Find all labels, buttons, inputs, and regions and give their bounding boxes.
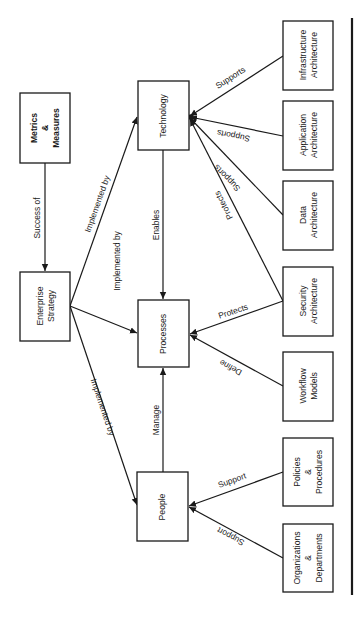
infrastructure-line2: Architecture xyxy=(309,32,319,78)
node-workflow-models: Workflow Models xyxy=(283,352,333,421)
label-strategy-people: Implemented by xyxy=(89,377,118,437)
node-infrastructure-architecture: Infrastructure Architecture xyxy=(283,21,333,90)
data-line1: Data xyxy=(298,206,308,224)
workflow-line1: Workflow xyxy=(298,368,308,404)
edge-infrastructure-technology xyxy=(190,56,283,116)
security-line2: Architecture xyxy=(309,278,319,324)
node-data-architecture: Data Architecture xyxy=(283,181,333,250)
node-organizations-departments: Organizations & Departments xyxy=(283,524,333,592)
security-line1: Security xyxy=(298,285,308,317)
edge-strategy-technology xyxy=(70,117,137,306)
metrics-line2: & xyxy=(40,125,50,131)
processes-label: Processes xyxy=(158,314,168,354)
data-line2: Architecture xyxy=(309,192,319,238)
node-enterprise-strategy: Enterprise Strategy xyxy=(20,272,70,341)
label-supports-infrastructure: Supports xyxy=(214,64,248,91)
edge-security-technology xyxy=(190,119,283,301)
edge-strategy-processes xyxy=(70,306,137,333)
application-line1: Application xyxy=(298,114,308,156)
strategy-line1: Enterprise xyxy=(35,286,45,325)
node-policies-procedures: Policies & Procedures xyxy=(283,438,333,506)
organizations-line1: Organizations xyxy=(292,531,302,584)
label-support-organizations: Support xyxy=(215,525,246,548)
node-security-architecture: Security Architecture xyxy=(283,267,333,336)
node-processes: Processes xyxy=(138,300,189,367)
metrics-line3: Measures xyxy=(51,108,61,148)
policies-line3: Procedures xyxy=(314,450,324,494)
technology-label: Technology xyxy=(158,94,168,138)
label-define: Define xyxy=(217,357,243,378)
label-manage: Manage xyxy=(151,405,161,436)
label-success-of: Success of xyxy=(32,197,42,239)
node-metrics-measures: Metrics & Measures xyxy=(20,93,70,163)
infrastructure-line1: Infrastructure xyxy=(298,29,308,80)
edge-organizations-people xyxy=(189,507,283,558)
metrics-line1: Metrics xyxy=(29,113,39,143)
people-label: People xyxy=(157,493,167,520)
label-protects-technology: Protects xyxy=(212,189,235,221)
edge-workflow-processes xyxy=(190,335,283,386)
application-line2: Architecture xyxy=(309,112,319,158)
label-enables: Enables xyxy=(151,210,161,240)
organizations-line3: Departments xyxy=(314,533,324,582)
policies-line1: Policies xyxy=(292,457,302,487)
enterprise-architecture-diagram: Success of Implemented by Implemented by… xyxy=(0,0,363,617)
node-people: People xyxy=(137,472,188,541)
policies-line2: & xyxy=(303,469,313,475)
label-protects-processes: Protects xyxy=(217,302,249,321)
label-strategy-technology: Implemented by xyxy=(83,173,113,233)
label-supports-application: Supports xyxy=(216,128,251,144)
node-application-architecture: Application Architecture xyxy=(283,101,333,170)
node-technology: Technology xyxy=(138,81,189,150)
workflow-line2: Models xyxy=(309,372,319,400)
organizations-line2: & xyxy=(303,555,313,561)
strategy-line2: Strategy xyxy=(46,289,56,322)
label-strategy-processes: Implemented by xyxy=(112,230,122,290)
